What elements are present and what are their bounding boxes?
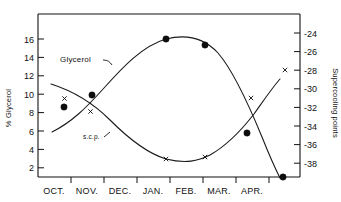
month-label: DEC.	[109, 186, 132, 196]
month-label: APR.	[241, 186, 263, 196]
left-tick-label: 14	[24, 53, 34, 63]
scp-curve	[51, 79, 280, 162]
data-point	[283, 68, 287, 72]
data-point	[280, 174, 286, 180]
scp-annotation-leader	[104, 132, 110, 137]
right-axis-title: Supercooling points	[331, 68, 340, 138]
month-label: NOV.	[76, 186, 98, 196]
data-point	[61, 104, 67, 110]
month-label: MAR.	[207, 186, 231, 196]
left-tick-label: 8	[29, 108, 34, 118]
glycerol-annotation-leader	[103, 60, 112, 65]
data-point	[202, 42, 208, 48]
left-tick-label: 12	[24, 71, 34, 81]
data-point	[89, 92, 95, 98]
bottom-axis-ticks	[71, 177, 269, 183]
month-label: JAN.	[143, 186, 164, 196]
left-tick-label: 10	[24, 90, 34, 100]
left-axis-tick-labels: 16 14 12 10 8 6 4 2	[24, 35, 34, 174]
right-tick-label: -36	[304, 140, 317, 150]
right-tick-label: -28	[304, 66, 317, 76]
right-axis-tick-labels: -24 -26 -28 -30 -32 -34 -36 -38	[304, 29, 317, 169]
month-label: OCT.	[43, 186, 65, 196]
scp-annotation-label: s.c.p.	[83, 133, 100, 141]
right-tick-label: -34	[304, 122, 317, 132]
left-tick-label: 6	[29, 127, 34, 137]
right-tick-label: -32	[304, 103, 317, 113]
data-point	[88, 109, 92, 113]
right-tick-label: -26	[304, 47, 317, 57]
left-tick-label: 2	[29, 163, 34, 173]
right-tick-label: -30	[304, 84, 317, 94]
glycerol-data-points	[61, 36, 286, 180]
chart-figure: 16 14 12 10 8 6 4 2 % Glycerol -24 -26 -…	[0, 0, 341, 202]
right-tick-label: -38	[304, 159, 317, 169]
data-point	[163, 36, 169, 42]
left-tick-label: 4	[29, 145, 34, 155]
glycerol-annotation-label: Glycerol	[60, 55, 91, 64]
data-point	[244, 130, 250, 136]
right-axis-ticks	[294, 33, 300, 163]
left-axis-title: % Glycerol	[4, 89, 13, 127]
data-point	[249, 96, 253, 100]
month-label: FEB.	[175, 186, 196, 196]
right-tick-label: -24	[304, 29, 317, 39]
bottom-axis-month-labels: OCT. NOV. DEC. JAN. FEB. MAR. APR.	[43, 186, 263, 196]
left-axis-ticks	[38, 39, 44, 168]
data-point	[62, 96, 66, 100]
left-tick-label: 16	[24, 35, 34, 45]
